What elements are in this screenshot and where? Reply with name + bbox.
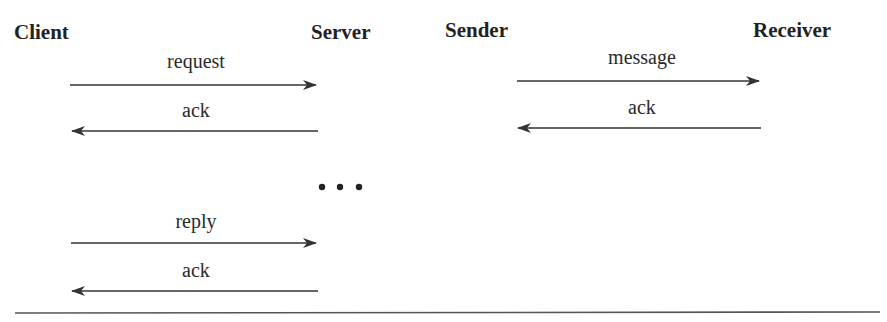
- bottom-rule: [15, 312, 880, 313]
- sequence-diagram: Client Server Sender Receiver request ac…: [0, 0, 887, 322]
- arrows-layer: [0, 0, 887, 322]
- ellipsis-dots: [319, 184, 362, 190]
